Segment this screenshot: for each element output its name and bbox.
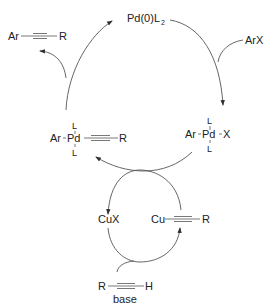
- svg-text:Ar: Ar: [50, 132, 61, 144]
- terminal-alkyne: R H: [98, 280, 153, 292]
- svg-text:Pd: Pd: [202, 128, 215, 140]
- arc-cu-bottom: [108, 228, 180, 262]
- svg-text:2: 2: [161, 19, 165, 26]
- svg-text:R: R: [119, 132, 127, 144]
- product-label: Ar R: [8, 30, 67, 42]
- arc-reductive-elimination: [66, 21, 112, 110]
- svg-text:L: L: [72, 148, 77, 158]
- arc-transmetalation: [96, 152, 192, 171]
- copper-acetylide: Cu R: [151, 213, 210, 225]
- svg-text:R: R: [98, 280, 106, 292]
- arc-cu-top: [108, 170, 181, 214]
- diagram-canvas: Pd(0)L 2 ArX Ar R L Ar Pd R L L Ar Pd X …: [0, 0, 275, 306]
- oxidative-addition-complex: L Ar Pd X L: [185, 116, 231, 154]
- svg-text:H: H: [145, 280, 153, 292]
- svg-text:X: X: [223, 128, 231, 140]
- base-label: base: [113, 293, 137, 305]
- svg-text:Pd: Pd: [67, 132, 80, 144]
- svg-text:Pd(0)L: Pd(0)L: [127, 12, 160, 24]
- svg-text:L: L: [72, 121, 77, 131]
- svg-text:R: R: [202, 213, 210, 225]
- svg-text:Ar: Ar: [185, 128, 196, 140]
- sonogashira-diagram: Pd(0)L 2 ArX Ar R L Ar Pd R L L Ar Pd X …: [0, 0, 275, 306]
- svg-text:Cu: Cu: [151, 213, 165, 225]
- arc-alkyne-in: [117, 261, 134, 272]
- transmetalation-complex: L Ar Pd R L: [50, 121, 127, 158]
- arc-oxidative-addition: [170, 20, 223, 105]
- arx-label: ArX: [245, 34, 264, 46]
- svg-text:Ar: Ar: [8, 30, 19, 42]
- svg-text:R: R: [59, 30, 67, 42]
- svg-text:L: L: [207, 116, 212, 126]
- catalyst-label: Pd(0)L 2: [127, 12, 165, 26]
- arc-product-release: [40, 51, 66, 78]
- cux-label: CuX: [98, 213, 120, 225]
- svg-text:L: L: [207, 144, 212, 154]
- arc-arx-in: [218, 40, 243, 62]
